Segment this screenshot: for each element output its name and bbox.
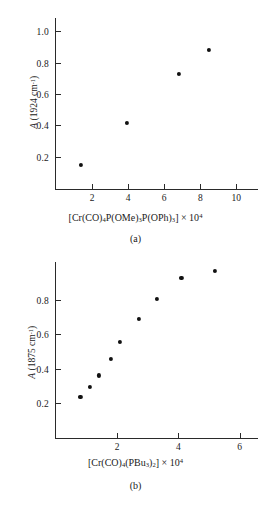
y-tick-b	[56, 403, 61, 404]
y-tick-a	[56, 125, 61, 126]
data-point	[118, 340, 122, 344]
x-tick-label-a: 10	[232, 193, 242, 203]
y-tick-a	[56, 94, 61, 95]
y-tick-b	[56, 300, 61, 301]
x-tick-label-b: 4	[176, 442, 181, 452]
figure-panel-b: 0.20.40.60.8246 A (1875 cm-1) [Cr(CO)4(P…	[0, 252, 271, 505]
panel-caption-a: (a)	[0, 233, 271, 244]
data-point	[78, 395, 82, 399]
x-tick-label-a: 2	[90, 193, 95, 203]
y-tick-label-a: 1.0	[37, 27, 49, 37]
y-tick-label-b: 0.6	[37, 330, 49, 340]
x-axis-label-a: [Cr(CO)4P(OMe)3P(OPh)3] × 104	[0, 212, 271, 223]
panel-caption-b: (b)	[0, 480, 271, 491]
data-point	[97, 374, 101, 378]
x-tick-label-a: 6	[162, 193, 167, 203]
x-tick-label-b: 6	[237, 442, 242, 452]
y-tick-b	[56, 369, 61, 370]
x-tick-a	[164, 184, 165, 189]
x-tick-label-b: 2	[115, 442, 120, 452]
x-tick-a	[128, 184, 129, 189]
data-point	[155, 297, 159, 301]
plot-area-b: 0.20.40.60.8246 A (1875 cm-1) [Cr(CO)4(P…	[0, 252, 271, 505]
plot-area-a: 0.20.40.60.81.0246810 A (1924 cm-1) [Cr(…	[0, 0, 271, 252]
data-point	[179, 276, 183, 280]
data-point	[213, 269, 217, 273]
y-tick-a	[56, 157, 61, 158]
x-tick-label-a: 8	[198, 193, 203, 203]
data-point	[88, 385, 92, 389]
x-tick-b	[117, 433, 118, 438]
x-axis-label-b: [Cr(CO)4(PBu3)2] × 104	[0, 457, 271, 468]
y-axis-label-b: A (1875 cm-1)	[27, 292, 38, 412]
data-point	[79, 163, 83, 167]
y-tick-label-b: 0.4	[37, 365, 49, 375]
x-tick-b	[240, 433, 241, 438]
x-tick-b	[178, 433, 179, 438]
data-point	[109, 357, 113, 361]
y-axis-label-a: A (1924 cm-1)	[29, 42, 40, 162]
data-point	[177, 72, 181, 76]
x-tick-a	[236, 184, 237, 189]
x-tick-a	[92, 184, 93, 189]
axes-b: 0.20.40.60.8246	[55, 262, 258, 439]
axes-a: 0.20.40.60.81.0246810	[55, 18, 258, 190]
x-tick-a	[200, 184, 201, 189]
y-tick-a	[56, 31, 61, 32]
figure-panel-a: 0.20.40.60.81.0246810 A (1924 cm-1) [Cr(…	[0, 0, 271, 252]
y-tick-b	[56, 334, 61, 335]
data-point	[125, 121, 129, 125]
x-tick-label-a: 4	[126, 193, 131, 203]
data-point	[137, 317, 141, 321]
data-point	[207, 48, 211, 52]
y-tick-label-b: 0.8	[37, 296, 49, 306]
y-tick-a	[56, 63, 61, 64]
y-tick-label-b: 0.2	[37, 399, 49, 409]
